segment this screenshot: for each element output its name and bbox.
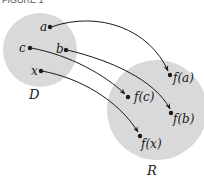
- point-fc: [126, 95, 130, 99]
- label-c: c: [19, 41, 26, 55]
- point-a: [48, 25, 52, 29]
- figure-caption: FIGURE 1: [2, 0, 44, 5]
- point-b: [64, 48, 68, 52]
- label-a: a: [40, 20, 47, 34]
- label-fx: f(x): [140, 137, 162, 151]
- domain-label-D: D: [28, 87, 40, 102]
- label-b: b: [56, 42, 64, 56]
- function-mapping-diagram: FIGURE 1 a b c x D f(a) f(b) f(c) f(x) R: [0, 0, 204, 183]
- point-x: [39, 69, 43, 73]
- label-fb: f(b): [172, 112, 195, 126]
- point-c: [28, 46, 32, 50]
- label-x: x: [31, 64, 38, 78]
- label-fc: f(c): [133, 90, 155, 104]
- point-fa: [168, 73, 172, 77]
- range-label-R: R: [146, 163, 157, 178]
- label-fa: f(a): [172, 71, 194, 85]
